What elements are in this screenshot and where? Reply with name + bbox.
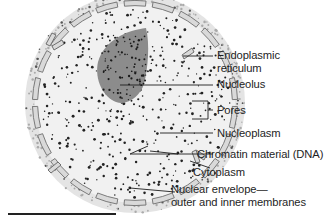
label-endoplasmic-reticulum: Endoplasmic reticulum <box>217 49 280 75</box>
label-nucleolus: Nucleolus <box>217 78 265 91</box>
label-cytoplasm: Cytoplasm <box>193 166 245 179</box>
label-chromatin: Chromatin material (DNA) <box>197 148 323 161</box>
figure-rule <box>8 213 116 215</box>
label-nuclear-envelope: Nuclear envelope— outer and inner membra… <box>171 183 306 209</box>
label-pores: Pores <box>217 104 246 117</box>
label-nucleoplasm: Nucleoplasm <box>217 127 281 140</box>
nucleus-diagram: Endoplasmic reticulum Nucleolus Pores Nu… <box>0 0 325 218</box>
